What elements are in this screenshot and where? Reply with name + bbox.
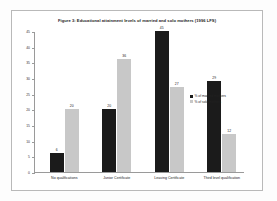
y-axis-tick: 25 [32, 95, 35, 96]
y-axis-tick: 10 [32, 142, 35, 143]
bar-value-label: 29 [212, 76, 216, 80]
bar-value-label: 20 [107, 104, 111, 108]
y-axis-tick: 20 [32, 110, 35, 111]
bar-group: 4527Leaving Certificate [155, 31, 184, 172]
y-axis-tick-label: 30 [26, 77, 30, 81]
bar-value-label: 27 [175, 82, 179, 86]
chart-page: Figure 3: Educational attainment levels … [0, 0, 277, 201]
legend-item-label: % of solo mothers [195, 100, 221, 104]
bar-group: 620No qualifications [50, 31, 79, 172]
y-axis-tick-label: 45 [26, 30, 30, 34]
x-axis-category-label: Third level qualification [203, 176, 240, 180]
x-axis [34, 172, 244, 173]
bar-value-label: 12 [227, 129, 231, 133]
bar-value-label: 20 [70, 104, 74, 108]
chart-title: Figure 3: Educational attainment levels … [12, 18, 262, 23]
y-axis-tick-label: 0 [28, 171, 30, 175]
bar: 6 [50, 153, 64, 172]
bar: 36 [117, 59, 131, 172]
chart-frame: Figure 3: Educational attainment levels … [11, 10, 263, 191]
y-axis-tick-label: 20 [26, 108, 30, 112]
y-axis-tick: 0 [32, 173, 35, 174]
bar: 12 [222, 134, 236, 172]
legend-swatch-icon [190, 100, 193, 103]
y-axis-tick-label: 15 [26, 124, 30, 128]
bar-value-label: 36 [122, 54, 126, 58]
bar-group: 2036Junior Certificate [102, 31, 131, 172]
y-axis-tick-label: 5 [28, 155, 30, 159]
y-axis-tick-label: 40 [26, 46, 30, 50]
legend-item: % of solo mothers [190, 100, 226, 104]
y-axis-tick-label: 35 [26, 61, 30, 65]
y-axis-tick: 30 [32, 79, 35, 80]
y-axis-tick: 40 [32, 48, 35, 49]
legend-item-label: % of married mothers [195, 94, 227, 98]
y-axis-tick-label: 10 [26, 140, 30, 144]
bar: 45 [155, 31, 169, 172]
y-axis-tick: 5 [32, 157, 35, 158]
bar: 27 [170, 87, 184, 172]
y-axis-tick-label: 25 [26, 93, 30, 97]
bar: 20 [65, 109, 79, 172]
x-axis-category-label: Junior Certificate [103, 176, 130, 180]
y-axis [34, 32, 35, 173]
bar-value-label: 6 [56, 148, 58, 152]
y-axis-tick: 15 [32, 126, 35, 127]
x-axis-category-label: No qualifications [51, 176, 77, 180]
bar-value-label: 45 [160, 26, 164, 30]
y-axis-tick: 35 [32, 63, 35, 64]
chart-legend: % of married mothers% of solo mothers [190, 94, 226, 105]
x-axis-category-label: Leaving Certificate [154, 176, 184, 180]
y-axis-tick: 45 [32, 32, 35, 33]
legend-item: % of married mothers [190, 94, 226, 98]
bar: 20 [102, 109, 116, 172]
legend-swatch-icon [190, 95, 193, 98]
